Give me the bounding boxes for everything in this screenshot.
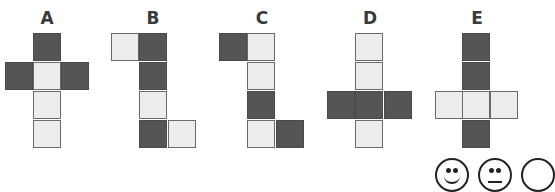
light-cell <box>247 62 275 90</box>
dark-cell <box>139 62 167 90</box>
light-cell <box>33 62 61 90</box>
light-cell <box>111 33 139 61</box>
light-cell <box>462 91 490 119</box>
net-label: A <box>40 8 53 28</box>
partial-face-icon[interactable] <box>521 158 555 192</box>
dark-cell <box>384 91 412 119</box>
net-label: C <box>256 8 268 28</box>
light-cell <box>490 91 518 119</box>
dark-cell <box>462 33 490 61</box>
dark-cell <box>462 120 490 148</box>
net-label: D <box>363 8 377 28</box>
net-label: B <box>147 8 160 28</box>
light-cell <box>139 91 167 119</box>
light-cell <box>247 33 275 61</box>
dark-cell <box>276 120 304 148</box>
neutral-face-icon[interactable] <box>478 158 512 192</box>
net-label: E <box>471 8 483 28</box>
dark-cell <box>139 33 167 61</box>
light-cell <box>33 120 61 148</box>
light-cell <box>355 33 383 61</box>
light-cell <box>355 62 383 90</box>
dark-cell <box>5 62 33 90</box>
dark-cell <box>61 62 89 90</box>
dark-cell <box>33 33 61 61</box>
light-cell <box>33 91 61 119</box>
dark-cell <box>219 33 247 61</box>
dark-cell <box>355 91 383 119</box>
happy-face-icon[interactable] <box>435 158 469 192</box>
light-cell <box>355 120 383 148</box>
dark-cell <box>247 91 275 119</box>
dark-cell <box>462 62 490 90</box>
dark-cell <box>139 120 167 148</box>
light-cell <box>247 120 275 148</box>
light-cell <box>168 120 196 148</box>
light-cell <box>435 91 463 119</box>
dark-cell <box>327 91 355 119</box>
